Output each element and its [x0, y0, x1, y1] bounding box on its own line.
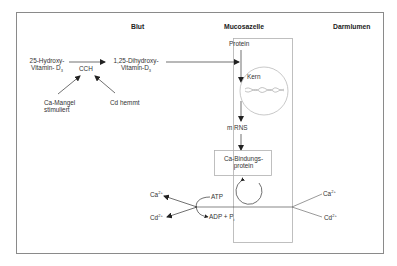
- dna-strand-icon: [245, 88, 284, 91]
- ca-left-charge: 2+: [158, 190, 163, 195]
- ca-lumen-branch: [292, 194, 322, 207]
- header-blut: Blut: [131, 23, 144, 30]
- dihydroxy-line1: 1,25-Dihydroxy-: [108, 57, 164, 64]
- hydroxy-line2: Vitamin- D3: [26, 64, 68, 71]
- ca-right-text: Ca: [323, 190, 331, 197]
- cycle-arrow: [236, 181, 262, 204]
- cd-lumen-branch: [292, 207, 322, 217]
- cd-release-arrow: [167, 207, 197, 217]
- ca-mangel-line2: stimuliert: [44, 106, 75, 113]
- cd-right-text: Cd: [324, 214, 332, 221]
- hydroxy-sub: 3: [61, 69, 63, 74]
- dihydroxy-line2-text: Vitamin-D: [121, 64, 149, 71]
- ca-left-text: Ca: [150, 191, 158, 198]
- cd-hemmt-label: Cd hemmt: [110, 99, 139, 106]
- dna-strand-icon: [245, 89, 284, 92]
- cd-ion-lumen: Cd2+: [324, 214, 337, 221]
- dihydroxy-line2: Vitamin-D3: [108, 64, 164, 71]
- ca-ion-blood: Ca2+: [150, 191, 163, 198]
- binding-line2: protein: [215, 162, 272, 169]
- ca-right-charge: 2+: [331, 189, 336, 194]
- stimulation-arrow: [58, 76, 80, 94]
- hydroxy-line1: 25-Hydroxy-: [26, 57, 68, 64]
- mucosa-cell-box: [234, 39, 293, 243]
- enzyme-label: CCH: [79, 65, 93, 72]
- kern-label: Kern: [247, 73, 261, 80]
- dihydroxy-sub: 3: [149, 69, 151, 74]
- ca-ion-lumen: Ca2+: [323, 190, 336, 197]
- cd-ion-blood: Cd2+: [150, 214, 163, 221]
- binding-line1: Ca-Bindungs-: [215, 155, 272, 162]
- binding-protein-label: Ca-Bindungs- protein: [215, 155, 272, 170]
- adp-label: ADP + Pi: [209, 213, 234, 220]
- cd-left-text: Cd: [150, 214, 158, 221]
- adp-text: ADP + P: [209, 213, 234, 220]
- mrns-label: m RNS: [227, 124, 248, 131]
- cd-left-charge: 2+: [158, 213, 163, 218]
- header-mucosazelle: Mucosazelle: [224, 23, 264, 30]
- cd-right-charge: 2+: [332, 213, 337, 218]
- ca-release-arrow: [164, 196, 197, 207]
- adp-sub: i: [234, 217, 235, 222]
- dihydroxy-vitamin-d3-label: 1,25-Dihydroxy- Vitamin-D3: [108, 57, 164, 72]
- hydroxy-line2-text: Vitamin- D: [31, 64, 61, 71]
- protein-label: Protein: [229, 40, 249, 47]
- diagram-canvas: [0, 0, 397, 266]
- ca-mangel-label: Ca-Mangel stimuliert: [44, 99, 75, 114]
- atp-label: ATP: [211, 193, 223, 200]
- header-darmlumen: Darmlumen: [333, 23, 370, 30]
- hydroxy-vitamin-d3-label: 25-Hydroxy- Vitamin- D3: [26, 57, 68, 72]
- inhibition-arrow: [95, 76, 115, 93]
- ca-mangel-line1: Ca-Mangel: [44, 99, 75, 106]
